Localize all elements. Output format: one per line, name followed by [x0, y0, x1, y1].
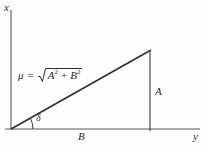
radical-sign-icon [38, 68, 47, 82]
formula-equals-sign: = [28, 69, 34, 81]
radicand-operator: + [61, 69, 67, 81]
angle-arc [31, 119, 33, 129]
x-axis-label: x [4, 2, 9, 13]
y-axis-label: y [193, 131, 198, 142]
leg-b-label: B [78, 131, 85, 142]
radicand-term-b: B [70, 69, 77, 81]
magnitude-formula: μ= A2+B2 [18, 68, 82, 81]
radicand-term-a-exponent: 2 [54, 68, 58, 76]
formula-radical: A2+B2 [38, 68, 83, 81]
diagram-canvas: x y A B δ μ= A2+B2 [0, 0, 208, 152]
hypotenuse-line [11, 50, 151, 129]
radicand: A2+B2 [47, 68, 83, 81]
formula-mu-symbol: μ [18, 69, 24, 81]
leg-a-label: A [155, 86, 162, 97]
angle-delta-label: δ [36, 113, 41, 123]
radicand-term-b-exponent: 2 [77, 68, 81, 76]
